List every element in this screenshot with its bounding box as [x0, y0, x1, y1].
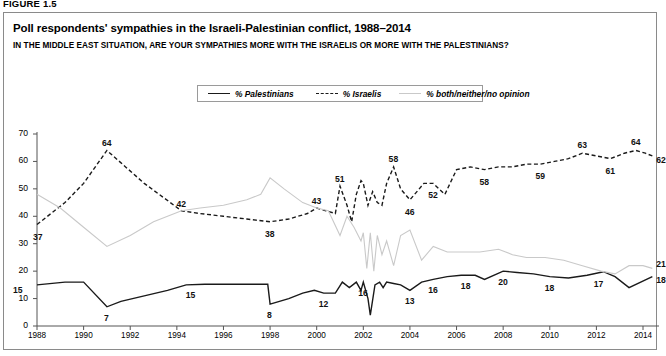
x-tick-label: 2000	[300, 331, 334, 340]
x-tick-label: 2004	[393, 331, 427, 340]
x-tick-label: 1992	[113, 331, 147, 340]
data-point-label: 37	[33, 232, 43, 242]
data-point-label: 38	[265, 229, 275, 239]
data-point-label: 46	[405, 207, 415, 217]
data-point-label: 51	[335, 174, 345, 184]
data-point-label: 58	[389, 154, 399, 164]
y-tick-label: 50	[6, 183, 28, 193]
data-point-label: 17	[594, 279, 604, 289]
x-tick-label: 2006	[440, 331, 474, 340]
data-point-label: 7	[104, 313, 109, 323]
y-tick-label: 30	[6, 238, 28, 248]
data-point-label: 59	[535, 171, 545, 181]
series-line-both-neither-no-opinion	[37, 178, 652, 274]
x-tick-label: 1994	[160, 331, 194, 340]
y-tick-label: 60	[6, 155, 28, 165]
data-point-label: 16	[428, 285, 438, 295]
data-point-label: 21	[656, 259, 666, 269]
data-point-label: 16	[358, 288, 368, 298]
data-point-label: 20	[498, 277, 508, 287]
data-point-label: 18	[461, 281, 471, 291]
data-point-label: 15	[186, 290, 196, 300]
x-tick-label: 2012	[579, 331, 613, 340]
data-point-label: 63	[577, 140, 587, 150]
y-tick-label: 20	[6, 265, 28, 275]
x-tick-label: 1988	[20, 331, 54, 340]
x-tick-label: 2014	[626, 331, 660, 340]
data-point-label: 61	[605, 166, 615, 176]
data-point-label: 64	[102, 138, 112, 148]
x-tick-label: 2002	[346, 331, 380, 340]
series-line-palestinians	[37, 271, 652, 315]
x-tick-label: 2010	[533, 331, 567, 340]
y-tick-label: 0	[6, 320, 28, 330]
y-tick-label: 40	[6, 210, 28, 220]
x-tick-label: 1996	[206, 331, 240, 340]
data-point-label: 8	[267, 310, 272, 320]
x-tick-label: 1990	[67, 331, 101, 340]
data-point-label: 52	[428, 190, 438, 200]
data-point-label: 12	[319, 299, 329, 309]
data-point-label: 58	[480, 177, 490, 187]
data-point-label: 42	[177, 199, 187, 209]
y-tick-label: 70	[6, 128, 28, 138]
data-point-label: 18	[656, 275, 666, 285]
data-point-label: 13	[405, 296, 415, 306]
data-point-label: 15	[13, 285, 23, 295]
series-line-israelis	[37, 150, 652, 224]
data-point-label: 62	[656, 155, 666, 165]
data-point-label: 43	[312, 196, 322, 206]
x-tick-label: 1998	[253, 331, 287, 340]
data-point-label: 64	[631, 137, 641, 147]
x-tick-label: 2008	[486, 331, 520, 340]
data-point-label: 18	[545, 283, 555, 293]
